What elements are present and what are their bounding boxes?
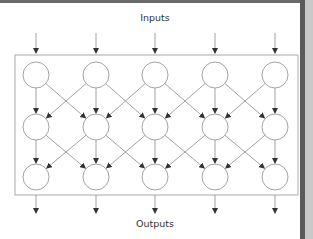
neuron-node [202, 62, 228, 88]
connection-arrow [226, 84, 266, 118]
neuron-node [202, 114, 228, 140]
neural-network-diagram [0, 0, 300, 239]
connection-arrow [165, 84, 205, 118]
connection-arrow [165, 135, 204, 168]
neuron-node [142, 164, 168, 190]
neuron-node [23, 62, 49, 88]
connection-arrow [107, 135, 145, 168]
connection-arrow [106, 84, 145, 118]
neuron-node [262, 114, 288, 140]
neuron-node [23, 164, 49, 190]
neuron-node [202, 164, 228, 190]
connection-arrow [106, 135, 144, 168]
neuron-node [142, 114, 168, 140]
neuron-node [83, 164, 109, 190]
connection-arrow [46, 135, 85, 168]
neuron-node [262, 164, 288, 190]
neuron-node [142, 62, 168, 88]
connection-arrow [107, 84, 146, 118]
neuron-node [262, 62, 288, 88]
neuron-node [83, 114, 109, 140]
connection-arrow [47, 84, 87, 118]
neuron-node [83, 62, 109, 88]
connection-arrow [226, 135, 265, 168]
connection-arrow [47, 135, 86, 168]
connection-arrow [225, 135, 264, 168]
connection-arrow [166, 84, 206, 118]
connection-arrow [225, 84, 265, 118]
window-outer-frame [305, 0, 313, 239]
connection-arrow [166, 135, 205, 168]
connection-arrow [46, 84, 86, 118]
neuron-node [23, 114, 49, 140]
